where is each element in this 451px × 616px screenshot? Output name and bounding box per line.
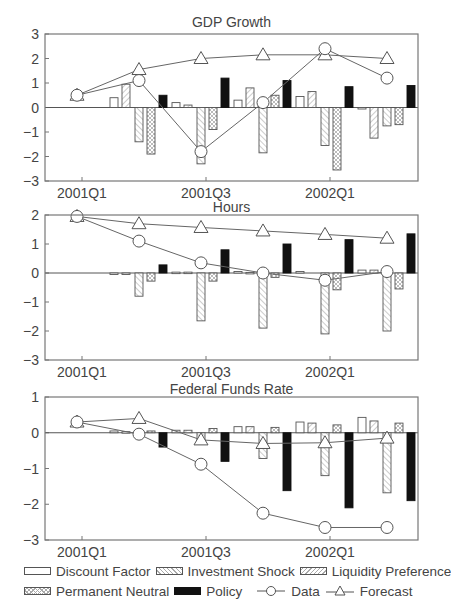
data-point-circle-icon — [319, 274, 331, 286]
permanent-neutral-bar — [333, 108, 341, 170]
panel-title: Federal Funds Rate — [170, 381, 294, 397]
investment-shock-bar — [370, 108, 378, 139]
legend-label: Data — [291, 584, 320, 599]
y-tick-label: 2 — [31, 207, 39, 223]
liquidity-preference-bar — [259, 273, 267, 328]
legend-item-liquidity-preference: Liquidity Preference — [300, 564, 451, 579]
data-line — [77, 422, 387, 527]
policy-bar — [159, 265, 167, 273]
data-point-circle-icon — [381, 72, 393, 84]
permanent-neutral-swatch-icon — [24, 587, 51, 595]
forecast-point-triangle-icon — [132, 411, 146, 423]
policy-swatch-icon — [174, 587, 201, 595]
y-tick-label: 1 — [31, 75, 39, 91]
y-tick-label: −1 — [23, 461, 39, 477]
investment-shock-bar — [122, 273, 130, 275]
permanent-neutral-bar — [147, 431, 155, 433]
x-tick-label: 2001Q1 — [57, 364, 107, 380]
permanent-neutral-bar — [395, 108, 403, 125]
permanent-neutral-bar — [209, 108, 217, 130]
y-tick-label: −1 — [23, 124, 39, 140]
policy-bar — [407, 234, 415, 273]
permanent-neutral-bar — [395, 273, 403, 289]
panel-title: GDP Growth — [192, 14, 271, 30]
policy-bar — [345, 433, 353, 508]
y-tick-label: 3 — [31, 26, 39, 42]
y-tick-label: 1 — [31, 236, 39, 252]
discount-factor-bar — [172, 103, 180, 108]
panel-gdp-growth: GDP Growth3210−1−2−32001Q12001Q32002Q1 — [23, 14, 418, 201]
discount-factor-bar — [358, 417, 366, 432]
data-point-circle-icon — [257, 97, 269, 109]
policy-bar — [345, 87, 353, 108]
legend-label: Permanent Neutral — [56, 584, 169, 599]
permanent-neutral-bar — [333, 425, 341, 433]
investment-shock-swatch-icon — [156, 567, 183, 575]
discount-factor-bar — [234, 427, 242, 433]
discount-factor-bar — [296, 422, 304, 433]
panel-title: Hours — [213, 199, 250, 215]
y-tick-label: 0 — [31, 265, 39, 281]
investment-shock-bar — [308, 423, 316, 433]
investment-shock-bar — [184, 105, 192, 107]
legend-row-2: Permanent Neutral Policy Data Forecast — [24, 582, 444, 600]
discount-factor-bar — [110, 431, 118, 433]
permanent-neutral-bar — [333, 273, 341, 290]
discount-factor-bar — [172, 272, 180, 274]
y-tick-label: −3 — [23, 532, 39, 548]
data-point-circle-icon — [195, 146, 207, 158]
data-point-circle-icon — [71, 210, 83, 222]
x-tick-label: 2001Q1 — [57, 185, 107, 201]
investment-shock-bar — [246, 427, 254, 433]
discount-factor-bar — [110, 273, 118, 275]
legend-label: Forecast — [360, 584, 413, 599]
policy-bar — [407, 433, 415, 501]
figure: GDP Growth3210−1−2−32001Q12001Q32002Q1Ho… — [0, 0, 451, 616]
forecast-point-triangle-icon — [256, 48, 270, 60]
circle-marker-line-icon — [256, 584, 286, 598]
x-tick-label: 2001Q3 — [181, 544, 231, 560]
data-point-circle-icon — [381, 266, 393, 278]
discount-factor-bar — [296, 272, 304, 274]
data-point-circle-icon — [71, 416, 83, 428]
policy-bar — [221, 250, 229, 273]
investment-shock-bar — [246, 88, 254, 108]
permanent-neutral-bar — [271, 427, 279, 432]
liquidity-preference-bar — [135, 273, 143, 296]
forecast-point-triangle-icon — [194, 220, 208, 232]
discount-factor-bar — [110, 98, 118, 108]
y-tick-label: −2 — [23, 149, 39, 165]
investment-shock-bar — [246, 272, 254, 274]
permanent-neutral-bar — [209, 428, 217, 432]
legend-label: Discount Factor — [56, 564, 151, 579]
investment-shock-bar — [370, 421, 378, 433]
discount-factor-swatch-icon — [24, 567, 51, 575]
x-tick-label: 2001Q1 — [57, 544, 107, 560]
permanent-neutral-bar — [395, 423, 403, 433]
y-tick-label: −3 — [23, 173, 39, 189]
legend-item-data: Data — [256, 584, 320, 599]
legend-label: Liquidity Preference — [332, 564, 451, 579]
data-point-circle-icon — [257, 267, 269, 279]
legend-item-permanent-neutral: Permanent Neutral — [24, 584, 169, 599]
data-line — [77, 216, 387, 280]
forecast-point-triangle-icon — [194, 52, 208, 64]
data-point-circle-icon — [195, 458, 207, 470]
forecast-point-triangle-icon — [194, 433, 208, 445]
forecast-point-triangle-icon — [256, 436, 270, 448]
discount-factor-bar — [358, 108, 366, 110]
investment-shock-bar — [184, 272, 192, 274]
liquidity-preference-bar — [383, 108, 391, 126]
liquidity-preference-swatch-icon — [300, 567, 327, 575]
policy-bar — [159, 95, 167, 107]
forecast-point-triangle-icon — [256, 224, 270, 236]
y-tick-label: 0 — [31, 100, 39, 116]
investment-shock-bar — [184, 430, 192, 433]
investment-shock-bar — [308, 92, 316, 108]
liquidity-preference-bar — [135, 108, 143, 142]
data-point-circle-icon — [319, 521, 331, 533]
liquidity-preference-bar — [197, 273, 205, 321]
permanent-neutral-bar — [271, 95, 279, 107]
x-tick-label: 2002Q1 — [305, 185, 355, 201]
liquidity-preference-bar — [383, 273, 391, 331]
